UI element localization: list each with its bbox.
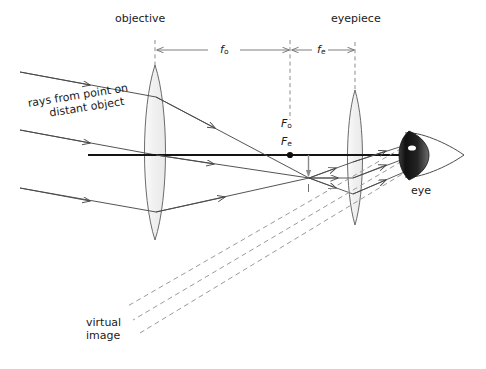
- focal-length-objective-label: fo: [220, 44, 228, 57]
- virtual-image-label-line2: image: [86, 330, 121, 343]
- eye-graphic: [399, 131, 464, 180]
- incoming-ray-2-arrow: [20, 130, 90, 143]
- eye-highlight: [408, 145, 416, 150]
- focal-length-eyepiece-subscript: e: [321, 47, 326, 56]
- focal-point-eyepiece-subscript: e: [287, 139, 292, 148]
- focal-point-objective-subscript: o: [287, 121, 292, 130]
- eyeball: [399, 131, 429, 180]
- eye-label: eye: [411, 185, 431, 198]
- virtual-ray-3: [140, 170, 409, 333]
- virtual-ray-2: [133, 157, 409, 320]
- focal-length-objective-subscript: o: [224, 47, 229, 56]
- focal-point-objective-label: Fo: [281, 118, 292, 131]
- eyepiece-label: eyepiece: [331, 13, 381, 26]
- objective-lens: [145, 65, 166, 240]
- focal-point-dot: [287, 152, 293, 158]
- incoming-ray-1-arrow: [20, 72, 90, 85]
- virtual-image-label: virtual image: [86, 317, 121, 343]
- refracted-ray-bottom-arrow: [156, 197, 225, 212]
- focal-length-eyepiece-label: fe: [317, 44, 326, 57]
- incoming-ray-3-arrow: [20, 188, 90, 201]
- focal-point-eyepiece-label: Fe: [281, 136, 292, 149]
- eyepiece-input-ray-3-arrow: [309, 178, 336, 188]
- eyepiece-input-ray-1-arrow: [309, 168, 336, 178]
- figure-canvas: objective eyepiece fo fe Fo Fe rays from…: [0, 0, 486, 369]
- objective-label: objective: [115, 13, 165, 26]
- virtual-ray-1: [126, 144, 409, 307]
- eyepiece-lens: [348, 90, 363, 225]
